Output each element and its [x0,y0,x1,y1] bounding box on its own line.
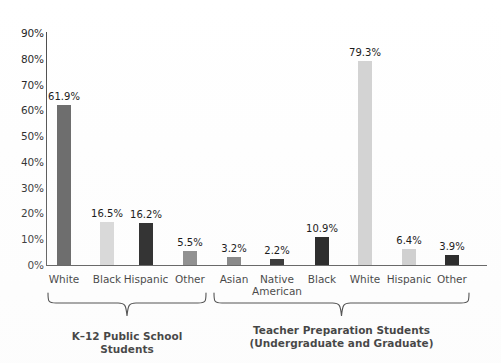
y-axis-tick-label: 40% [4,157,44,168]
bar-value-label: 10.9% [306,224,338,234]
bar [100,222,114,265]
y-axis-tick-label: 0% [4,260,44,271]
bar-value-label: 79.3% [349,48,381,58]
y-axis-tick-label: 10% [4,234,44,245]
y-axis-tick-label: 60% [4,105,44,116]
bar-value-label: 5.5% [177,238,202,248]
bar-value-label: 61.9% [48,92,80,102]
bar [183,251,197,265]
bar-value-label: 6.4% [396,236,421,246]
y-axis-tick-label: 50% [4,131,44,142]
bar [270,259,284,265]
bar-chart: 90%80%70%60%50%40%30%20%10%0% WhiteBlack… [0,0,501,363]
group-brace [213,292,470,318]
y-axis-tick-label: 20% [4,208,44,219]
y-axis-tick-labels: 90%80%70%60%50%40%30%20%10%0% [0,0,44,363]
group-caption: K–12 Public School Students [47,330,207,355]
bar-value-label: 3.9% [439,242,464,252]
bar-value-label: 16.2% [130,210,162,220]
bar-value-label: 16.5% [91,209,123,219]
bar [139,223,153,265]
y-axis-tick-label: 70% [4,79,44,90]
y-axis-tick-label: 30% [4,182,44,193]
bar [358,61,372,265]
bar [57,105,71,265]
y-axis-tick-label: 80% [4,54,44,65]
y-axis-tick-label: 90% [4,28,44,39]
bar [227,257,241,265]
bar [445,255,459,265]
bar [315,237,329,265]
group-brace [47,292,207,318]
group-caption: Teacher Preparation Students (Undergradu… [213,324,470,349]
bar [402,249,416,265]
x-axis-category-label: Other [417,274,487,286]
bar-value-label: 2.2% [264,246,289,256]
bar-value-label: 3.2% [221,244,246,254]
